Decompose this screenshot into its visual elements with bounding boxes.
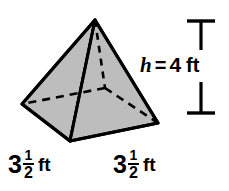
base-edge-left-label: 3 1 2 ft xyxy=(8,148,51,181)
height-variable: h xyxy=(140,55,152,76)
base-left-whole-number: 3 xyxy=(8,152,22,177)
base-right-unit: ft xyxy=(143,155,156,174)
base-left-fraction: 1 2 xyxy=(23,148,34,181)
height-value: 4 xyxy=(169,54,181,75)
height-equals-sign: = xyxy=(155,55,167,75)
base-right-numerator: 1 xyxy=(129,148,139,163)
base-left-denominator: 2 xyxy=(23,165,34,182)
height-unit: ft xyxy=(186,55,199,75)
base-edge-right-label: 3 1 2 ft xyxy=(113,148,156,181)
base-right-fraction: 1 2 xyxy=(128,148,139,181)
base-right-whole-number: 3 xyxy=(113,152,127,177)
base-left-numerator: 1 xyxy=(24,148,34,163)
base-left-unit: ft xyxy=(38,155,51,174)
height-label: h = 4 ft xyxy=(140,54,199,76)
base-right-denominator: 2 xyxy=(128,165,139,182)
pyramid-figure-page: h = 4 ft 3 1 2 ft 3 1 2 ft xyxy=(0,0,229,191)
